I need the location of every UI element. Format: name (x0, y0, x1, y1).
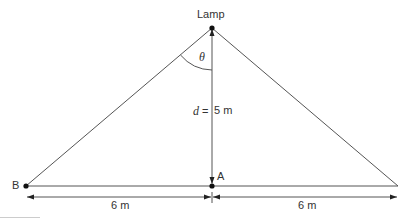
point-a-label: A (217, 170, 224, 182)
dim-left-arrow-left-icon (27, 195, 34, 200)
height-arrow-bottom-icon (210, 177, 215, 184)
distance-equals: = (202, 105, 208, 117)
dim-right-arrow-left-icon (213, 195, 220, 200)
lamp-dot (209, 25, 214, 30)
angle-arc (181, 55, 213, 70)
dim-right-arrow-right-icon (390, 195, 397, 200)
distance-variable: d (193, 104, 199, 118)
distance-label: d = (193, 104, 209, 119)
distance-value: 5 m (214, 104, 232, 116)
line-lamp-to-b (26, 28, 212, 186)
left-span-label: 6 m (111, 199, 129, 211)
point-a-dot (209, 183, 214, 188)
point-b-dot (23, 183, 28, 188)
right-span-label: 6 m (298, 199, 316, 211)
point-b-label: B (12, 179, 19, 191)
angle-label: θ (199, 50, 205, 65)
lamp-label: Lamp (197, 8, 225, 20)
line-lamp-to-right (212, 28, 398, 186)
dim-left-arrow-right-icon (204, 195, 211, 200)
